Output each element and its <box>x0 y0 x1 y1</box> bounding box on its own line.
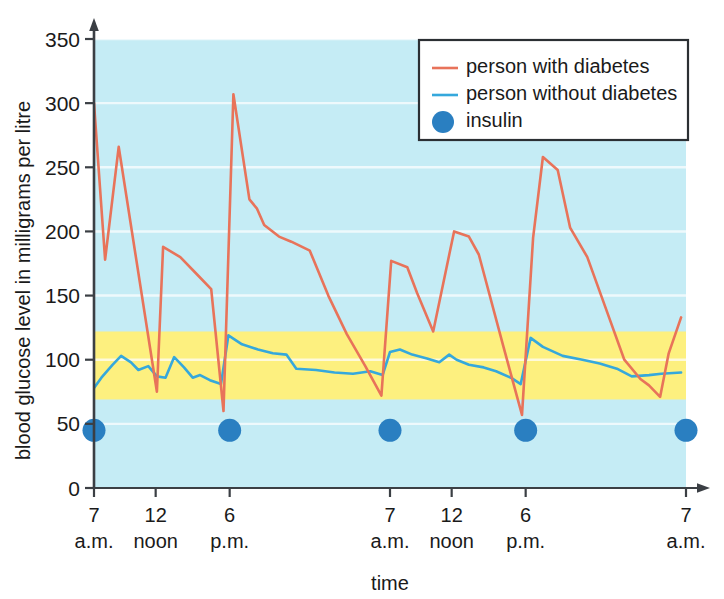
glucose-chart-figure: 050100150200250300350 7a.m.12noon6p.m.7a… <box>0 0 724 599</box>
x-tick-period: noon <box>429 530 474 552</box>
y-tick-label: 200 <box>45 220 80 243</box>
legend-swatch-dot-insulin <box>432 111 454 133</box>
x-tick-number: 6 <box>224 504 235 526</box>
x-tick-number: 7 <box>680 504 691 526</box>
y-tick-label: 0 <box>68 477 80 500</box>
legend: person with diabetes person without diab… <box>419 40 688 140</box>
y-tick-label: 100 <box>45 348 80 371</box>
y-axis-title: blood glucose level in milligrams per li… <box>12 101 34 460</box>
x-tick-number: 12 <box>145 504 167 526</box>
legend-label-insulin: insulin <box>466 109 523 131</box>
x-axis-ticks: 7a.m.12noon6p.m.7a.m.12noon6p.m.7a.m. <box>75 488 706 552</box>
y-tick-label: 300 <box>45 92 80 115</box>
insulin-dot <box>218 419 241 442</box>
x-tick-period: noon <box>133 530 178 552</box>
y-tick-label: 350 <box>45 28 80 51</box>
legend-entry-person-without-diabetes: person without diabetes <box>432 82 677 104</box>
insulin-dot <box>379 419 402 442</box>
insulin-dot <box>675 419 698 442</box>
y-tick-label: 250 <box>45 156 80 179</box>
legend-entry-insulin: insulin <box>432 109 523 133</box>
x-tick-number: 6 <box>520 504 531 526</box>
y-tick-label: 150 <box>45 284 80 307</box>
y-tick-label: 50 <box>57 412 80 435</box>
x-tick-number: 12 <box>441 504 463 526</box>
x-axis-title: time <box>371 572 409 594</box>
x-tick-number: 7 <box>88 504 99 526</box>
legend-label-person-without-diabetes: person without diabetes <box>466 82 677 104</box>
x-tick-period: p.m. <box>506 530 545 552</box>
x-tick-period: a.m. <box>667 530 706 552</box>
x-tick-period: p.m. <box>210 530 249 552</box>
x-tick-period: a.m. <box>75 530 114 552</box>
legend-label-person-with-diabetes: person with diabetes <box>466 55 649 77</box>
x-tick-number: 7 <box>384 504 395 526</box>
chart-canvas: 050100150200250300350 7a.m.12noon6p.m.7a… <box>0 0 724 599</box>
x-tick-period: a.m. <box>371 530 410 552</box>
insulin-dot <box>514 419 537 442</box>
